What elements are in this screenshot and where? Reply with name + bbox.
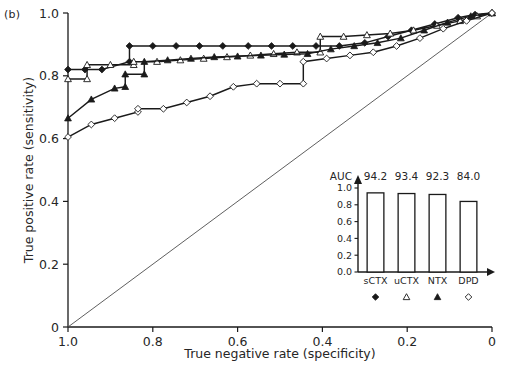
marker-open-diamond <box>88 121 95 128</box>
svg-text:0.6: 0.6 <box>39 131 59 146</box>
x-axis-title: True negative rate (specificity) <box>183 346 375 361</box>
svg-text:0.8: 0.8 <box>143 334 163 349</box>
svg-text:0.8: 0.8 <box>39 68 59 83</box>
marker-open-triangle <box>403 294 410 300</box>
marker-filled-diamond <box>313 43 320 50</box>
marker-filled-diamond <box>196 43 203 50</box>
y-axis-title: True positive rate (sensitivity) <box>21 77 36 264</box>
inset-auc-chart: 0.00.20.40.60.81.0AUC94.2sCTX93.4uCTX92.… <box>330 170 495 300</box>
svg-text:0.2: 0.2 <box>39 257 59 272</box>
marker-open-diamond <box>230 83 237 90</box>
svg-text:0: 0 <box>488 334 496 349</box>
panel-label: (b) <box>4 8 20 21</box>
marker-open-diamond <box>300 80 307 87</box>
svg-text:1.0: 1.0 <box>337 182 352 193</box>
marker-filled-diamond <box>99 66 106 73</box>
svg-text:1.0: 1.0 <box>58 334 78 349</box>
marker-open-diamond <box>347 52 354 59</box>
series-line <box>68 13 492 137</box>
inset-category-label: NTX <box>428 275 448 286</box>
marker-filled-diamond <box>268 43 275 50</box>
inset-bar <box>429 194 446 272</box>
inset-bar <box>367 193 384 272</box>
marker-open-diamond <box>370 49 377 56</box>
inset-auc-value: 94.2 <box>364 170 387 182</box>
marker-open-diamond <box>65 134 72 141</box>
marker-filled-diamond <box>245 43 252 50</box>
marker-open-diamond <box>300 58 307 65</box>
inset-auc-value: 92.3 <box>426 170 449 182</box>
inset-category-label: uCTX <box>394 275 419 286</box>
inset-auc-value: 93.4 <box>395 170 419 182</box>
marker-open-diamond <box>417 35 424 42</box>
marker-open-diamond <box>393 43 400 50</box>
inset-y-arrow-icon <box>354 175 362 184</box>
marker-open-diamond <box>323 55 330 62</box>
marker-open-diamond <box>207 93 214 100</box>
svg-text:1.0: 1.0 <box>39 6 59 21</box>
roc-plot-svg: 1.00.80.60.40.2000.20.40.60.81.0True neg… <box>0 0 505 366</box>
roc-figure: (b) 1.00.80.60.40.2000.20.40.60.81.0True… <box>0 0 505 366</box>
marker-open-diamond <box>253 80 260 87</box>
svg-text:0.4: 0.4 <box>337 233 352 244</box>
svg-text:0.4: 0.4 <box>39 194 59 209</box>
series-dpd <box>65 10 496 141</box>
inset-x-arrow-icon <box>487 268 495 276</box>
marker-open-diamond <box>111 115 118 122</box>
svg-text:0.2: 0.2 <box>397 334 417 349</box>
inset-auc-label: AUC <box>330 170 352 182</box>
svg-text:0.2: 0.2 <box>337 250 352 261</box>
svg-text:0.6: 0.6 <box>337 216 352 227</box>
inset-auc-value: 84.0 <box>457 170 480 182</box>
inset-bar <box>460 201 477 272</box>
marker-open-diamond <box>440 25 447 32</box>
marker-open-diamond <box>183 99 190 106</box>
marker-filled-diamond <box>173 43 180 50</box>
marker-filled-diamond <box>149 43 156 50</box>
inset-bar <box>398 194 415 272</box>
svg-text:0.8: 0.8 <box>337 199 352 210</box>
marker-filled-diamond <box>289 43 296 50</box>
marker-filled-diamond <box>372 294 379 301</box>
marker-filled-diamond <box>219 43 226 50</box>
svg-text:0.0: 0.0 <box>337 266 352 277</box>
inset-category-label: sCTX <box>364 275 388 286</box>
marker-filled-diamond <box>126 43 133 50</box>
svg-text:0: 0 <box>51 320 59 335</box>
series-sctx <box>65 10 496 73</box>
marker-open-diamond <box>277 80 284 87</box>
inset-category-label: DPD <box>458 275 478 286</box>
marker-filled-triangle <box>434 294 441 300</box>
marker-open-diamond <box>160 105 167 112</box>
marker-open-diamond <box>465 294 472 301</box>
marker-filled-diamond <box>65 66 72 73</box>
